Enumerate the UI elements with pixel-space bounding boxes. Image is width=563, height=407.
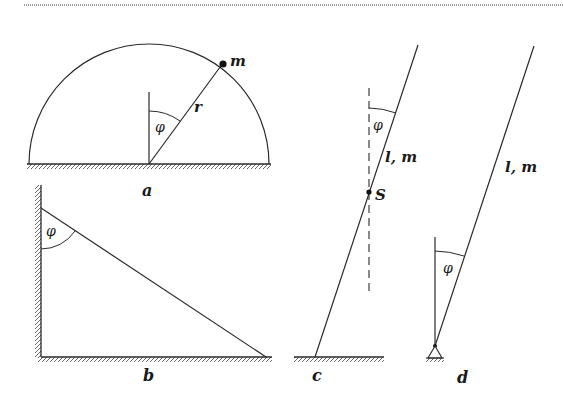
angle-label: φ: [46, 223, 56, 239]
rod-label: l, m: [505, 158, 537, 176]
angle-label: φ: [155, 119, 165, 135]
panel-c: φ l, m S c: [294, 45, 418, 385]
hinge-support-triangle: [428, 346, 442, 358]
caption-d: d: [457, 368, 468, 387]
support-hatch: [426, 358, 444, 362]
rod: [435, 46, 534, 346]
panel-d: φ l, m d: [426, 46, 537, 387]
caption-a: a: [142, 181, 152, 200]
wall-hatch: [35, 185, 41, 357]
center-of-mass-point: [366, 189, 371, 194]
physics-figure: m r φ a φ b φ l, m S c φ l, m: [0, 0, 563, 407]
rod: [315, 45, 418, 357]
angle-label: φ: [373, 117, 383, 133]
panel-b: φ b: [35, 185, 272, 385]
floor-hatch: [38, 357, 272, 362]
radius-label: r: [194, 98, 203, 116]
center-label: S: [375, 186, 386, 204]
caption-b: b: [143, 366, 154, 385]
floor-hatch: [294, 357, 384, 362]
mass-point: [219, 60, 226, 67]
caption-c: c: [312, 366, 322, 385]
angle-arc: [369, 108, 396, 113]
rod-label: l, m: [385, 148, 417, 166]
mass-label: m: [230, 52, 246, 70]
radius-line: [149, 63, 223, 164]
rod: [41, 208, 266, 357]
ground-hatch: [27, 164, 271, 169]
panel-a: m r φ a: [27, 44, 271, 200]
angle-label: φ: [443, 260, 453, 276]
angle-arc: [435, 251, 464, 256]
